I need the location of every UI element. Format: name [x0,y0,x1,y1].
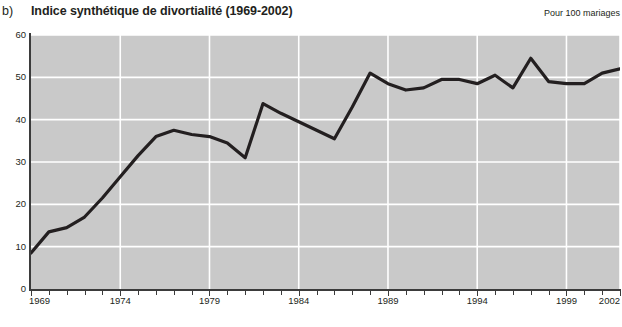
x-tick-label-1994: 1994 [467,296,488,306]
x-tick-mark-1972 [85,289,86,295]
x-tick-mark-1998 [549,289,550,295]
x-tick-label-1989: 1989 [377,296,398,306]
x-tick-label-1999: 1999 [556,296,577,306]
x-tick-mark-1988 [370,289,371,295]
x-tick-mark-1971 [67,289,68,295]
x-tick-mark-1987 [352,289,353,295]
x-tick-mark-1983 [281,289,282,295]
unit-note: Pour 100 mariages [544,8,620,18]
x-tick-mark-1977 [174,289,175,295]
x-tick-mark-1995 [495,289,496,295]
data-series-group [31,58,620,253]
x-tick-mark-1973 [102,289,103,295]
y-tick-label-30: 30 [2,157,26,167]
x-tick-label-1984: 1984 [288,296,309,306]
y-tick-label-10: 10 [2,242,26,252]
x-tick-mark-1980 [227,289,228,295]
x-tick-mark-1990 [406,289,407,295]
x-tick-mark-1986 [334,289,335,295]
y-tick-label-60: 60 [2,30,26,40]
x-tick-mark-1982 [263,289,264,295]
x-tick-label-2002: 2002 [599,296,620,306]
y-tick-label-40: 40 [2,115,26,125]
x-tick-mark-1978 [192,289,193,295]
x-tick-mark-1985 [317,289,318,295]
y-tick-label-50: 50 [2,72,26,82]
chart-svg [31,35,620,289]
y-axis-labels: 0102030405060 [0,0,26,327]
x-tick-label-1969: 1969 [29,296,50,306]
x-tick-mark-1992 [442,289,443,295]
plot-area [31,35,620,289]
x-tick-mark-2002 [620,289,621,296]
x-tick-label-1974: 1974 [110,296,131,306]
x-tick-mark-2000 [584,289,585,295]
x-tick-mark-1993 [459,289,460,295]
x-tick-mark-1975 [138,289,139,295]
divortialite-line [31,58,620,253]
y-tick-label-0: 0 [2,284,26,294]
gridlines [31,35,620,289]
x-tick-mark-1976 [156,289,157,295]
chart-title: Indice synthétique de divortialité (1969… [31,4,292,18]
x-tick-mark-1996 [513,289,514,295]
x-tick-mark-1981 [245,289,246,295]
figure-panel-b: b) Indice synthétique de divortialité (1… [0,0,622,327]
y-axis-line [29,33,31,291]
x-tick-mark-1997 [531,289,532,295]
x-tick-label-1979: 1979 [199,296,220,306]
y-tick-label-20: 20 [2,199,26,209]
chart-header: b) Indice synthétique de divortialité (1… [0,2,622,22]
x-tick-mark-1991 [424,289,425,295]
